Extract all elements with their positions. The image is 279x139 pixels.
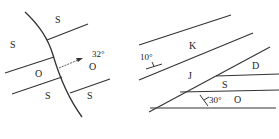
strike-dip-symbol-upper-icon: [146, 62, 162, 69]
label-o-right: O: [89, 61, 96, 72]
label-o-left: O: [35, 68, 42, 79]
contact-line-upper-right: [47, 24, 88, 40]
label-s-upper: S: [55, 14, 61, 25]
dip-angle-lower: 30°: [209, 95, 222, 105]
contact-line-left-upper: [5, 57, 54, 73]
label-s: S: [222, 79, 228, 90]
label-s-left: S: [10, 39, 16, 50]
label-d: D: [252, 60, 259, 71]
arrow-angle: 32°: [92, 49, 105, 59]
displacement-arrow-icon: [59, 58, 83, 68]
strike-dip-symbol-lower-icon: [200, 95, 209, 106]
curved-fault-line: [25, 12, 82, 117]
label-k: K: [189, 40, 197, 51]
label-s-lower-left: S: [45, 90, 51, 101]
geologic-map-figure: 32° S S O O S S 10° 30° K J D S O: [0, 0, 279, 139]
contact-line-left-lower: [12, 77, 62, 94]
label-j: J: [188, 70, 192, 81]
dip-angle-upper: 10°: [140, 52, 153, 62]
contact-line-d-s: [216, 74, 279, 76]
right-diagram: 10° 30° K J D S O: [139, 15, 279, 112]
contact-line-s-o: [180, 90, 279, 92]
left-diagram: 32° S S O O S S: [5, 12, 110, 117]
label-s-lower-right: S: [87, 90, 93, 101]
label-o: O: [234, 94, 241, 105]
contact-line-top: [139, 15, 231, 45]
